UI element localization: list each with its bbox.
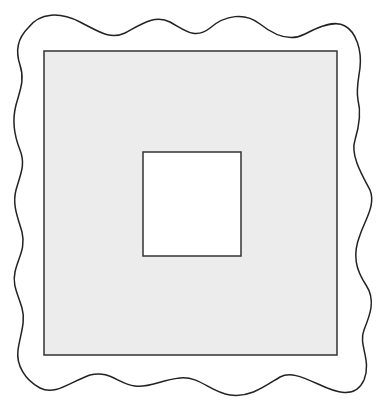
diagram-canvas xyxy=(0,0,384,407)
inner-square xyxy=(143,152,241,256)
